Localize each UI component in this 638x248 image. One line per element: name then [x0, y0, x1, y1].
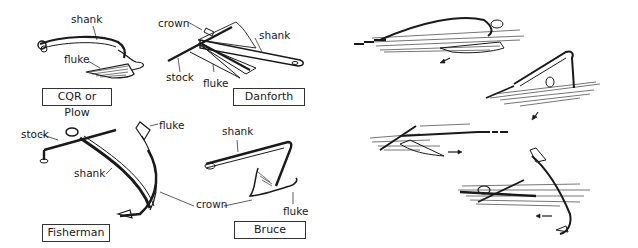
cqr-fluke-label: fluke: [64, 53, 89, 65]
setting-sequence-drawings: [354, 18, 600, 234]
bruce-anchor-drawing: [205, 140, 297, 204]
bruce-fluke-label: fluke: [283, 205, 308, 217]
danforth-crown-label: crown: [158, 17, 190, 29]
step-4-fisherman-hooked: [458, 148, 590, 234]
fisherman-caption: Fisherman: [42, 224, 110, 242]
fisherman-fluke-label: fluke: [159, 119, 184, 131]
danforth-shank-label: shank: [259, 29, 290, 41]
cqr-shank-label: shank: [71, 13, 102, 25]
cqr-plow-caption: CQR or Plow: [42, 88, 112, 106]
crown-label: crown: [196, 198, 228, 210]
step-2-plow-digging: [486, 51, 600, 120]
anchor-illustrations: [0, 0, 638, 248]
danforth-stock-label: stock: [166, 71, 194, 83]
cqr-anchor-drawing: [38, 26, 143, 78]
step-3-danforth-burying: [370, 124, 508, 156]
bruce-caption: Bruce: [234, 221, 306, 239]
danforth-caption: Danforth: [233, 88, 305, 106]
bruce-shank-label: shank: [222, 125, 253, 137]
step-1-plow-dragging: [354, 18, 524, 63]
fisherman-stock-label: stock: [21, 128, 49, 140]
fisherman-shank-label: shank: [74, 167, 105, 179]
danforth-fluke-label: fluke: [203, 77, 228, 89]
